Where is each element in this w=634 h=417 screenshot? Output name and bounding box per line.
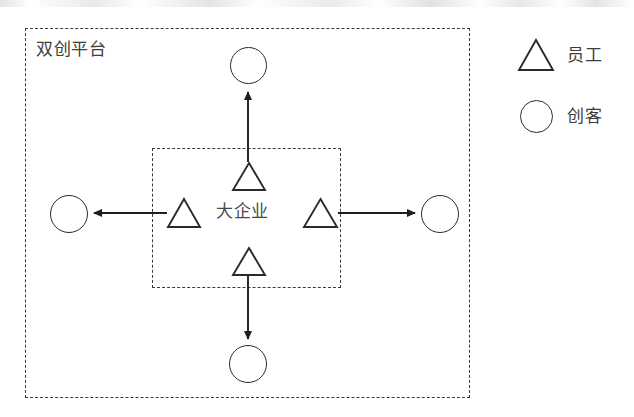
employee-node-left[interactable] (166, 197, 202, 229)
maker-node-bottom[interactable] (229, 345, 267, 383)
legend-triangle-icon (517, 38, 555, 72)
maker-node-top[interactable] (230, 47, 267, 84)
employee-node-bottom[interactable] (231, 246, 267, 277)
maker-node-left[interactable] (50, 195, 88, 233)
legend-label-maker: 创客 (567, 108, 602, 125)
diagram-canvas: 双创平台 大企业 (0, 0, 634, 417)
legend-circle-icon (520, 100, 553, 133)
employee-node-top[interactable] (231, 161, 267, 192)
legend-label-employee: 员工 (567, 47, 602, 64)
employee-node-right[interactable] (302, 197, 339, 229)
legend: 员工 创客 (505, 30, 630, 140)
maker-node-right[interactable] (421, 195, 459, 233)
